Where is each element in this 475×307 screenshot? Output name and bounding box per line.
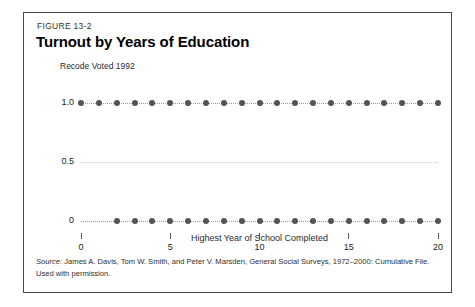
source-label: Source: xyxy=(36,257,62,266)
x-tick-label: 20 xyxy=(433,242,443,252)
x-tick-label: 10 xyxy=(254,242,264,252)
x-axis-ticks: 05101520 xyxy=(36,61,441,251)
page-title: Turnout by Years of Education xyxy=(36,33,249,50)
x-axis-title: Highest Year of School Completed xyxy=(81,233,438,243)
x-tick-label: 0 xyxy=(78,242,83,252)
x-tick-label: 5 xyxy=(168,242,173,252)
x-tick-label: 15 xyxy=(344,242,354,252)
source-text: James A. Davis, Tom W. Smith, and Peter … xyxy=(36,257,429,278)
figure-box: FIGURE 13-2 Turnout by Years of Educatio… xyxy=(23,12,452,293)
source-note: Source: James A. Davis, Tom W. Smith, an… xyxy=(36,256,440,279)
chart-plot-area: Recode Voted 1992 1.00.50 05101520 Highe… xyxy=(36,61,441,251)
figure-number: FIGURE 13-2 xyxy=(37,21,92,31)
